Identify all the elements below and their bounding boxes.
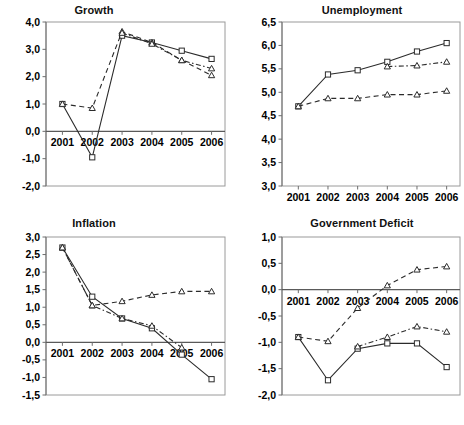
svg-text:2004: 2004 xyxy=(140,347,164,359)
svg-text:2001: 2001 xyxy=(51,136,75,148)
svg-text:-1,5: -1,5 xyxy=(258,362,276,374)
svg-text:1,0: 1,0 xyxy=(261,231,276,243)
svg-text:2002: 2002 xyxy=(316,191,340,203)
plot-growth: -2,0-1,00,01,02,03,04,020012002200320042… xyxy=(0,0,232,212)
panel-growth: Growth -2,0-1,00,01,02,03,04,02001200220… xyxy=(0,0,232,212)
svg-text:6,5: 6,5 xyxy=(261,16,276,28)
panel-unemployment: Unemployment 3,03,54,04,55,05,56,06,5200… xyxy=(232,0,464,212)
svg-text:3,0: 3,0 xyxy=(261,180,276,192)
svg-text:6,0: 6,0 xyxy=(261,39,276,51)
svg-text:1,0: 1,0 xyxy=(25,301,40,313)
svg-text:0,5: 0,5 xyxy=(261,257,276,269)
svg-text:2001: 2001 xyxy=(287,295,311,307)
svg-text:2006: 2006 xyxy=(200,136,224,148)
svg-text:2006: 2006 xyxy=(435,191,459,203)
panel-government-deficit: Government Deficit -2,0-1,5-1,0-0,50,00,… xyxy=(232,213,464,425)
svg-text:-1,5: -1,5 xyxy=(22,389,40,401)
svg-text:2003: 2003 xyxy=(346,191,370,203)
svg-text:2002: 2002 xyxy=(81,347,105,359)
svg-text:2001: 2001 xyxy=(51,347,75,359)
svg-text:0,0: 0,0 xyxy=(261,283,276,295)
svg-text:2006: 2006 xyxy=(435,295,459,307)
svg-text:2,0: 2,0 xyxy=(25,266,40,278)
svg-text:5,0: 5,0 xyxy=(261,86,276,98)
svg-text:4,0: 4,0 xyxy=(261,133,276,145)
svg-text:3,5: 3,5 xyxy=(261,156,276,168)
svg-text:2005: 2005 xyxy=(170,136,194,148)
svg-text:2001: 2001 xyxy=(287,191,311,203)
svg-text:1,0: 1,0 xyxy=(25,98,40,110)
svg-text:3,0: 3,0 xyxy=(25,231,40,243)
svg-text:2003: 2003 xyxy=(110,136,134,148)
svg-text:2,0: 2,0 xyxy=(25,70,40,82)
svg-text:4,5: 4,5 xyxy=(261,109,276,121)
plot-unemployment: 3,03,54,04,55,05,56,06,52001200220032004… xyxy=(232,0,464,212)
svg-text:-2,0: -2,0 xyxy=(22,180,40,192)
panel-inflation: Inflation -1,5-1,0-0,50,00,51,01,52,02,5… xyxy=(0,213,232,425)
four-panel-chart-figure: Growth -2,0-1,00,01,02,03,04,02001200220… xyxy=(0,0,464,425)
svg-text:2004: 2004 xyxy=(376,295,400,307)
svg-text:2002: 2002 xyxy=(316,295,340,307)
svg-text:5,5: 5,5 xyxy=(261,62,276,74)
svg-text:3,0: 3,0 xyxy=(25,43,40,55)
svg-text:2006: 2006 xyxy=(200,347,224,359)
svg-text:-1,0: -1,0 xyxy=(22,152,40,164)
svg-text:2005: 2005 xyxy=(405,191,429,203)
svg-text:4,0: 4,0 xyxy=(25,16,40,28)
svg-text:-1,0: -1,0 xyxy=(22,371,40,383)
svg-text:0,0: 0,0 xyxy=(25,125,40,137)
svg-text:2004: 2004 xyxy=(376,191,400,203)
svg-text:2003: 2003 xyxy=(110,347,134,359)
svg-text:-1,0: -1,0 xyxy=(258,336,276,348)
svg-text:2004: 2004 xyxy=(140,136,164,148)
plot-inflation: -1,5-1,0-0,50,00,51,01,52,02,53,02001200… xyxy=(0,213,232,425)
svg-text:0,5: 0,5 xyxy=(25,318,40,330)
svg-text:-2,0: -2,0 xyxy=(258,389,276,401)
svg-text:0,0: 0,0 xyxy=(25,336,40,348)
svg-text:-0,5: -0,5 xyxy=(22,353,40,365)
svg-text:1,5: 1,5 xyxy=(25,283,40,295)
plot-government-deficit: -2,0-1,5-1,0-0,50,00,51,0200120022003200… xyxy=(232,213,464,425)
svg-text:-0,5: -0,5 xyxy=(258,310,276,322)
svg-text:2005: 2005 xyxy=(405,295,429,307)
svg-text:2,5: 2,5 xyxy=(25,248,40,260)
